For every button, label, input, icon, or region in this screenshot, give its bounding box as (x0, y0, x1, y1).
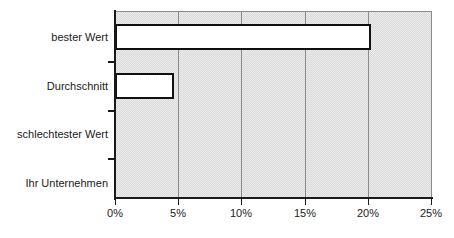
x-axis-tick-label-25: 25% (420, 207, 442, 220)
x-tick-mark (305, 199, 306, 205)
x-axis-tick-label-5: 5% (170, 207, 186, 220)
x-tick-mark (368, 199, 369, 205)
x-axis-tick-label-15: 15% (294, 207, 316, 220)
y-tick-mark (108, 61, 114, 63)
x-axis-tick-label-0: 0% (107, 207, 123, 220)
bar-bester-wert (115, 24, 371, 50)
y-tick-mark (108, 158, 114, 160)
y-axis-label-text: Ihr Unternehmen (25, 177, 108, 189)
bar-durchschnitt (115, 73, 174, 99)
y-axis-label-text: bester Wert (51, 31, 108, 43)
x-axis-tick-label-20: 20% (357, 207, 379, 220)
x-tick-mark (241, 199, 242, 205)
y-axis-line (114, 10, 116, 200)
x-tick-mark (431, 199, 432, 205)
x-axis-tick-label-10: 10% (230, 207, 252, 220)
y-axis-label-text: Durchschnitt (47, 80, 108, 92)
x-tick-mark (115, 199, 116, 205)
x-axis-line (114, 197, 433, 199)
x-tick-mark (178, 199, 179, 205)
y-axis-label-text: schlechtester Wert (17, 128, 108, 140)
bar-chart: bester Wert Durchschnitt schlechtester W… (0, 0, 454, 238)
y-tick-mark (108, 110, 114, 112)
